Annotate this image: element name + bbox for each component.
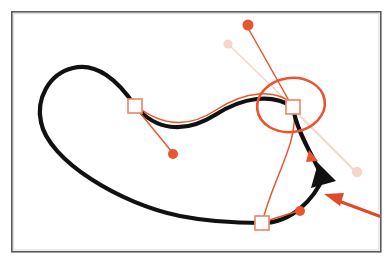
- image-border: [12, 12, 381, 252]
- figure-root: [0, 0, 392, 267]
- anchor-square-right[interactable]: [286, 100, 300, 114]
- control-dot-left[interactable]: [168, 149, 178, 159]
- control-dot-right-upper[interactable]: [243, 20, 254, 31]
- anchor-square-left[interactable]: [128, 99, 142, 113]
- control-dot-bottom[interactable]: [295, 206, 305, 216]
- faded-control-dot-upper[interactable]: [223, 39, 232, 48]
- anchor-square-bottom[interactable]: [255, 216, 269, 230]
- bezier-illustration: [0, 0, 392, 267]
- faded-control-dot-lower[interactable]: [352, 167, 362, 177]
